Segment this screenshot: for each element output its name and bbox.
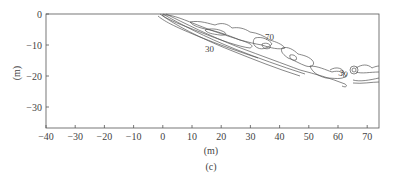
x-tick-label: 20 <box>216 131 226 142</box>
y-tick-label: −10 <box>26 40 42 51</box>
x-tick-label: 70 <box>362 131 372 142</box>
x-tick-label: −10 <box>126 131 142 142</box>
x-axis-title: (m) <box>204 145 218 157</box>
x-tick-label: −30 <box>67 131 83 142</box>
x-tick-label: −40 <box>38 131 54 142</box>
contour-label-30-left: 30 <box>205 44 215 54</box>
x-tick-label: 60 <box>333 131 343 142</box>
contour-figure: −40−30−20−10010203040506070 0−10−20−30 (… <box>0 0 394 182</box>
y-axis-title: (m) <box>11 66 23 80</box>
y-tick-label: −30 <box>26 102 42 113</box>
contour-label-70: 70 <box>265 32 275 42</box>
y-tick-label: −20 <box>26 71 42 82</box>
x-tick-label: 40 <box>275 131 285 142</box>
x-tick-label: 30 <box>245 131 255 142</box>
x-tick-label: 50 <box>304 131 314 142</box>
x-tick-label: 10 <box>187 131 197 142</box>
panel-caption: (c) <box>205 161 216 173</box>
x-tick-label: 0 <box>160 131 165 142</box>
x-tick-label: −20 <box>97 131 113 142</box>
x-axis: −40−30−20−10010203040506070 <box>38 125 372 142</box>
y-tick-label: 0 <box>37 9 42 20</box>
